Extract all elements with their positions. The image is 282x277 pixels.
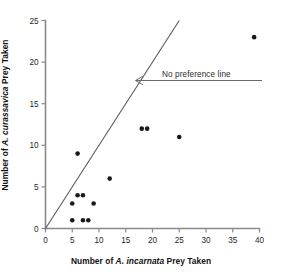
x-axis-title-prefix: Number of — [71, 256, 116, 266]
x-tick-label: 35 — [228, 236, 238, 245]
data-points — [70, 35, 256, 223]
x-tick-label: 5 — [70, 236, 75, 245]
y-axis-title-species: A. curassavica — [0, 86, 10, 145]
data-point — [75, 151, 80, 156]
x-tick-label: 10 — [94, 236, 104, 245]
data-point — [145, 126, 150, 131]
x-tick-label: 25 — [175, 236, 185, 245]
data-point — [86, 218, 91, 223]
y-axis-tick-labels: 0510152025 — [29, 17, 39, 234]
data-point — [70, 201, 75, 206]
x-axis-title-species: A. incarnata — [116, 256, 165, 266]
x-axis-title-suffix: Prey Taken — [164, 256, 211, 266]
x-tick-label: 20 — [148, 236, 158, 245]
scatter-plot-figure: 0510152025303540 0510152025 No preferenc… — [0, 0, 282, 277]
data-point — [70, 218, 75, 223]
data-point — [91, 201, 96, 206]
x-axis-tick-labels: 0510152025303540 — [43, 236, 264, 245]
plot-canvas: 0510152025303540 0510152025 — [0, 0, 282, 277]
y-axis-title: Number of A. curassavica Prey Taken — [0, 0, 12, 230]
x-tick-label: 30 — [201, 236, 211, 245]
y-tick-label: 15 — [29, 100, 39, 109]
y-tick-label: 10 — [29, 141, 39, 150]
y-tick-label: 20 — [29, 58, 39, 67]
x-tick-label: 40 — [255, 236, 265, 245]
y-tick-label: 0 — [34, 225, 39, 234]
x-tick-label: 0 — [43, 236, 48, 245]
data-point — [177, 135, 182, 140]
y-axis-title-prefix: Number of — [0, 146, 10, 191]
y-axis-title-suffix: Prey Taken — [0, 39, 10, 86]
data-point — [81, 193, 86, 198]
y-tick-label: 5 — [34, 183, 39, 192]
x-tick-label: 15 — [121, 236, 131, 245]
x-axis-title: Number of A. incarnata Prey Taken — [0, 256, 282, 266]
no-preference-reference-line — [46, 21, 180, 229]
no-preference-line-annotation: No preference line — [162, 70, 231, 79]
data-point — [252, 35, 257, 40]
data-point — [81, 218, 86, 223]
y-tick-label: 25 — [29, 17, 39, 26]
reference-line-path — [46, 21, 180, 229]
data-point — [75, 193, 80, 198]
data-point — [140, 126, 145, 131]
data-point — [107, 176, 112, 181]
